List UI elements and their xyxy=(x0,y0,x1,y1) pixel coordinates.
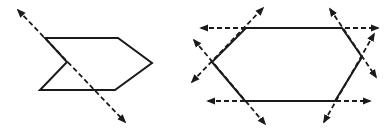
dashed-double-arrow-line xyxy=(18,10,125,122)
diagram-canvas xyxy=(0,0,389,132)
arrow-pentagon-outline xyxy=(40,38,152,90)
dashed-double-arrow-line xyxy=(324,34,374,122)
arrow-pentagon-figure xyxy=(18,10,152,122)
diagram-svg xyxy=(0,0,389,132)
hexagon-figure xyxy=(192,8,378,124)
dashed-double-arrow-line xyxy=(192,8,263,82)
